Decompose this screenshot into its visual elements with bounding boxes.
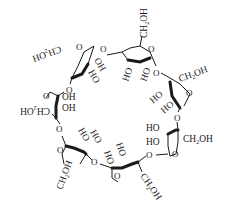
hydroxyl-label: HO — [102, 149, 116, 165]
hydroxyl-label: OH — [62, 92, 76, 102]
svg-text:CH2OH: CH2OH — [139, 8, 150, 38]
glucose-unit-2: O CH2OH HO HO O — [107, 8, 160, 83]
ch2oh-group: CH2OH — [31, 43, 63, 64]
hydroxyl-label: HO — [138, 66, 152, 82]
ch2oh-group: CH2OH — [138, 171, 164, 202]
glycosidic-oxygen: O — [174, 113, 181, 123]
glycosidic-oxygen: O — [56, 124, 63, 134]
cyclodextrin-structure-diagram: O O CH2OH OH HO O O CH2OH HO HO O — [0, 0, 228, 210]
hydroxyl-label: HO — [146, 123, 160, 133]
svg-text:CH2OH: CH2OH — [20, 105, 50, 116]
glycosidic-oxygen: O — [146, 150, 153, 160]
ch2oh-group: CH2OH — [20, 105, 50, 116]
hydroxyl-label: HO — [148, 89, 165, 106]
ch2oh-group: CH2OH — [183, 134, 213, 145]
ring-oxygen: O — [186, 88, 193, 98]
glucose-unit-7: O OH OH CH2OH — [20, 91, 76, 124]
ring-oxygen: O — [76, 42, 83, 52]
svg-text:HO: HO — [120, 66, 134, 82]
ch2oh-group: CH2OH — [139, 8, 150, 38]
glycosidic-oxygen: O — [91, 157, 98, 167]
ch2oh-group: CH2OH — [54, 159, 75, 191]
svg-text:HO: HO — [114, 141, 128, 157]
glucose-unit-1: O O CH2OH OH HO O — [31, 42, 108, 95]
hydroxyl-label: HO — [146, 137, 160, 147]
svg-text:HO: HO — [102, 149, 116, 165]
glucose-unit-5: O HO HO CH2OH O — [91, 141, 164, 202]
svg-text:HO: HO — [138, 66, 152, 82]
hydroxyl-label: HO — [114, 141, 128, 157]
ring-oxygen: O — [57, 145, 64, 155]
ch2oh-group: CH2OH — [177, 64, 209, 85]
svg-text:HO: HO — [88, 128, 104, 145]
glycosidic-oxygen: O — [153, 68, 160, 78]
ring-oxygen: O — [43, 91, 50, 101]
hydroxyl-label: HO — [88, 128, 104, 145]
glucose-unit-4: O HO HO CH2OH O — [146, 122, 213, 160]
svg-text:CH2OH: CH2OH — [138, 171, 164, 202]
svg-text:CH2OH: CH2OH — [54, 159, 75, 191]
hydroxyl-label: HO — [120, 66, 134, 82]
ring-oxygen: O — [148, 44, 155, 54]
hydroxyl-label: OH — [62, 103, 76, 113]
ring-oxygen: O — [114, 171, 121, 181]
glycosidic-oxygen: O — [100, 44, 107, 54]
svg-text:HO: HO — [148, 89, 165, 106]
ring-oxygen: O — [172, 149, 179, 159]
svg-text:CH2OH: CH2OH — [31, 43, 63, 64]
svg-text:CH2OH: CH2OH — [177, 64, 209, 85]
